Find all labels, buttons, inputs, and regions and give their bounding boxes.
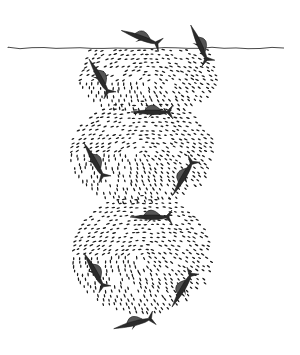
background: [0, 0, 300, 355]
sailfish-bait-ball-illustration: [0, 0, 300, 355]
